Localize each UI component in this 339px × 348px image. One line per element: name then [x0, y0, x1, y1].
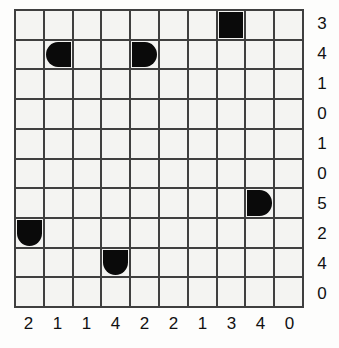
grid-cell-r7c5[interactable]	[160, 219, 189, 249]
grid-cell-r8c8[interactable]	[246, 249, 275, 279]
grid-cell-r8c5[interactable]	[160, 249, 189, 279]
piece-d-right-r1c4[interactable]	[132, 42, 157, 68]
piece-d-left-r1c1[interactable]	[46, 42, 71, 68]
grid-cell-r1c1[interactable]	[45, 41, 74, 71]
grid-cell-r1c9[interactable]	[275, 41, 304, 71]
grid-cell-r4c9[interactable]	[275, 130, 304, 160]
grid-cell-r6c9[interactable]	[275, 189, 304, 219]
grid-cell-r4c1[interactable]	[45, 130, 74, 160]
grid-cell-r5c4[interactable]	[131, 160, 160, 190]
grid-cell-r7c9[interactable]	[275, 219, 304, 249]
grid-cell-r3c3[interactable]	[102, 100, 131, 130]
grid-cell-r6c7[interactable]	[218, 189, 247, 219]
grid-cell-r6c2[interactable]	[74, 189, 103, 219]
grid-cell-r2c8[interactable]	[246, 70, 275, 100]
grid-cell-r3c8[interactable]	[246, 100, 275, 130]
piece-d-down-r7c0[interactable]	[17, 220, 42, 246]
grid-cell-r4c6[interactable]	[189, 130, 218, 160]
puzzle-grid[interactable]	[14, 9, 304, 308]
grid-cell-r6c1[interactable]	[45, 189, 74, 219]
grid-cell-r1c8[interactable]	[246, 41, 275, 71]
grid-cell-r3c9[interactable]	[275, 100, 304, 130]
grid-cell-r4c4[interactable]	[131, 130, 160, 160]
grid-cell-r3c0[interactable]	[16, 100, 45, 130]
grid-cell-r4c3[interactable]	[102, 130, 131, 160]
piece-d-right-r6c8[interactable]	[247, 190, 272, 216]
grid-cell-r8c9[interactable]	[275, 249, 304, 279]
grid-cell-r7c6[interactable]	[189, 219, 218, 249]
grid-cell-r5c3[interactable]	[102, 160, 131, 190]
grid-cell-r8c3[interactable]	[102, 249, 131, 279]
grid-cell-r7c0[interactable]	[16, 219, 45, 249]
grid-cell-r9c5[interactable]	[160, 278, 189, 308]
grid-cell-r0c3[interactable]	[102, 11, 131, 41]
grid-cell-r9c9[interactable]	[275, 278, 304, 308]
grid-cell-r4c2[interactable]	[74, 130, 103, 160]
grid-cell-r6c0[interactable]	[16, 189, 45, 219]
grid-cell-r5c6[interactable]	[189, 160, 218, 190]
grid-cell-r0c4[interactable]	[131, 11, 160, 41]
grid-cell-r3c1[interactable]	[45, 100, 74, 130]
grid-cell-r1c4[interactable]	[131, 41, 160, 71]
grid-cell-r5c7[interactable]	[218, 160, 247, 190]
grid-cell-r5c1[interactable]	[45, 160, 74, 190]
grid-cell-r9c8[interactable]	[246, 278, 275, 308]
grid-cell-r9c3[interactable]	[102, 278, 131, 308]
grid-cell-r0c1[interactable]	[45, 11, 74, 41]
grid-cell-r9c1[interactable]	[45, 278, 74, 308]
grid-cell-r4c5[interactable]	[160, 130, 189, 160]
grid-cell-r3c6[interactable]	[189, 100, 218, 130]
grid-cell-r7c4[interactable]	[131, 219, 160, 249]
grid-cell-r2c6[interactable]	[189, 70, 218, 100]
grid-cell-r9c4[interactable]	[131, 278, 160, 308]
grid-cell-r1c5[interactable]	[160, 41, 189, 71]
grid-cell-r1c7[interactable]	[218, 41, 247, 71]
grid-cell-r7c2[interactable]	[74, 219, 103, 249]
grid-cell-r5c9[interactable]	[275, 160, 304, 190]
grid-cell-r8c7[interactable]	[218, 249, 247, 279]
grid-cell-r6c4[interactable]	[131, 189, 160, 219]
grid-cell-r0c5[interactable]	[160, 11, 189, 41]
grid-cell-r7c3[interactable]	[102, 219, 131, 249]
piece-d-down-r8c3[interactable]	[103, 250, 128, 276]
grid-cell-r8c2[interactable]	[74, 249, 103, 279]
grid-cell-r8c1[interactable]	[45, 249, 74, 279]
grid-cell-r8c0[interactable]	[16, 249, 45, 279]
grid-cell-r2c3[interactable]	[102, 70, 131, 100]
grid-cell-r2c2[interactable]	[74, 70, 103, 100]
grid-cell-r4c7[interactable]	[218, 130, 247, 160]
grid-cell-r7c8[interactable]	[246, 219, 275, 249]
grid-cell-r1c0[interactable]	[16, 41, 45, 71]
grid-cell-r0c8[interactable]	[246, 11, 275, 41]
grid-cell-r2c0[interactable]	[16, 70, 45, 100]
grid-cell-r6c6[interactable]	[189, 189, 218, 219]
grid-cell-r2c7[interactable]	[218, 70, 247, 100]
grid-cell-r9c6[interactable]	[189, 278, 218, 308]
grid-cell-r6c5[interactable]	[160, 189, 189, 219]
grid-cell-r5c8[interactable]	[246, 160, 275, 190]
grid-cell-r8c6[interactable]	[189, 249, 218, 279]
grid-cell-r9c0[interactable]	[16, 278, 45, 308]
grid-cell-r7c7[interactable]	[218, 219, 247, 249]
grid-cell-r5c5[interactable]	[160, 160, 189, 190]
grid-cell-r1c2[interactable]	[74, 41, 103, 71]
grid-cell-r4c0[interactable]	[16, 130, 45, 160]
grid-cell-r3c5[interactable]	[160, 100, 189, 130]
grid-cell-r0c7[interactable]	[218, 11, 247, 41]
grid-cell-r9c7[interactable]	[218, 278, 247, 308]
grid-cell-r6c8[interactable]	[246, 189, 275, 219]
grid-cell-r0c2[interactable]	[74, 11, 103, 41]
grid-cell-r6c3[interactable]	[102, 189, 131, 219]
grid-cell-r3c4[interactable]	[131, 100, 160, 130]
grid-cell-r1c6[interactable]	[189, 41, 218, 71]
grid-cell-r0c6[interactable]	[189, 11, 218, 41]
grid-cell-r3c7[interactable]	[218, 100, 247, 130]
grid-cell-r2c9[interactable]	[275, 70, 304, 100]
grid-cell-r4c8[interactable]	[246, 130, 275, 160]
grid-cell-r5c2[interactable]	[74, 160, 103, 190]
grid-cell-r0c9[interactable]	[275, 11, 304, 41]
grid-cell-r2c1[interactable]	[45, 70, 74, 100]
grid-cell-r0c0[interactable]	[16, 11, 45, 41]
grid-cell-r8c4[interactable]	[131, 249, 160, 279]
grid-cell-r5c0[interactable]	[16, 160, 45, 190]
